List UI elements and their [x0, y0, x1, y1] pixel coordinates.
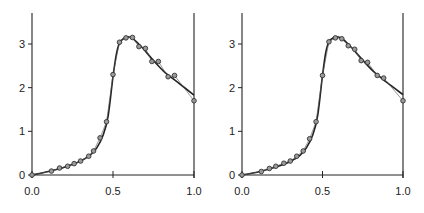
data-point-marker	[130, 35, 135, 40]
data-point-marker	[72, 161, 77, 166]
data-point-marker	[288, 159, 293, 164]
data-point-marker	[327, 40, 332, 45]
data-point-marker	[282, 161, 287, 166]
x-tick-label: 1.0	[186, 185, 201, 197]
chart-canvas: 01230.00.51.0 01230.00.51.0	[0, 0, 424, 213]
data-point-marker	[346, 43, 351, 48]
left-panel: 01230.00.51.0	[19, 13, 202, 197]
data-point-marker	[49, 169, 54, 174]
observed-line	[32, 37, 194, 175]
x-tick-label: 0.5	[315, 185, 330, 197]
data-point-marker	[30, 173, 35, 178]
data-point-marker	[359, 58, 364, 63]
data-point-marker	[320, 73, 325, 78]
x-tick-label: 0.0	[234, 185, 249, 197]
data-point-marker	[86, 154, 91, 159]
data-point-marker	[401, 98, 406, 103]
data-point-marker	[240, 173, 245, 178]
data-point-marker	[166, 74, 171, 79]
right-panel: 01230.00.51.0	[229, 13, 411, 197]
data-point-marker	[150, 59, 155, 64]
data-point-marker	[192, 98, 197, 103]
data-point-marker	[301, 149, 306, 154]
data-point-marker	[104, 119, 109, 124]
data-point-marker	[307, 136, 312, 141]
data-point-marker	[259, 169, 264, 174]
data-point-marker	[65, 164, 70, 169]
y-tick-label: 0	[229, 169, 235, 181]
data-point-marker	[57, 166, 62, 171]
data-point-marker	[117, 40, 122, 45]
fitted-curve	[32, 37, 194, 175]
data-point-marker	[333, 36, 338, 41]
x-tick-label: 1.0	[395, 185, 410, 197]
data-point-marker	[124, 36, 129, 41]
y-tick-label: 3	[229, 38, 235, 50]
data-point-marker	[294, 154, 299, 159]
data-point-marker	[365, 60, 370, 65]
figure: 01230.00.51.0 01230.00.51.0	[0, 0, 424, 213]
data-point-marker	[267, 166, 272, 171]
data-point-marker	[78, 159, 83, 164]
data-point-marker	[172, 73, 177, 78]
fitted-curve	[242, 37, 403, 175]
data-point-marker	[340, 36, 345, 41]
data-point-marker	[111, 72, 116, 77]
y-tick-label: 1	[19, 125, 25, 137]
data-point-marker	[156, 59, 161, 64]
data-point-marker	[143, 46, 148, 51]
data-point-marker	[381, 76, 386, 81]
y-tick-label: 3	[19, 38, 25, 50]
y-tick-label: 2	[19, 82, 25, 94]
x-tick-label: 0.5	[105, 185, 120, 197]
data-point-marker	[352, 47, 357, 52]
data-point-marker	[375, 73, 380, 78]
observed-line	[242, 38, 403, 175]
data-point-marker	[274, 164, 279, 169]
data-point-marker	[91, 149, 96, 154]
y-tick-label: 2	[229, 82, 235, 94]
x-tick-label: 0.0	[24, 185, 39, 197]
y-tick-label: 1	[229, 125, 235, 137]
data-point-marker	[137, 44, 142, 49]
data-point-marker	[98, 136, 103, 141]
y-tick-label: 0	[19, 169, 25, 181]
data-point-marker	[314, 119, 319, 124]
